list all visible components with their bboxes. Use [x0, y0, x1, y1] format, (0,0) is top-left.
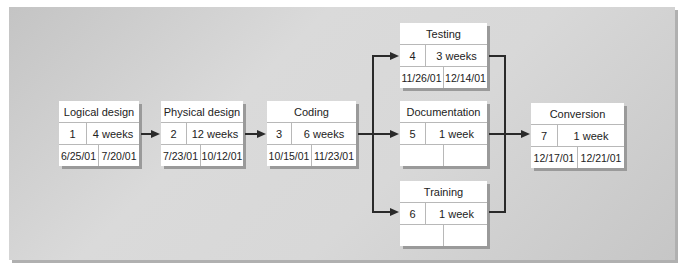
task-start — [400, 225, 443, 246]
task-name: Logical design — [59, 101, 139, 122]
task-node-documentation: Documentation 51 week — [400, 101, 487, 166]
task-node-physical-design: Physical design 212 weeks 7/23/0110/12/0… — [161, 101, 243, 166]
task-end: 11/23/01 — [311, 145, 356, 166]
fork-vertical — [372, 55, 374, 213]
task-name: Conversion — [531, 103, 624, 124]
task-id: 6 — [400, 203, 425, 224]
task-end — [443, 225, 487, 246]
task-end: 12/14/01 — [443, 67, 487, 88]
edge-5-7 — [489, 133, 522, 135]
task-end — [443, 145, 487, 166]
task-id: 7 — [531, 125, 557, 146]
task-start — [400, 145, 443, 166]
task-name: Coding — [267, 101, 356, 122]
task-node-coding: Coding 36 weeks 10/15/0111/23/01 — [267, 101, 356, 166]
edge-6-join — [489, 211, 506, 213]
task-duration: 6 weeks — [291, 123, 356, 144]
task-start: 10/15/01 — [267, 145, 311, 166]
task-duration: 1 week — [425, 203, 487, 224]
task-start: 7/23/01 — [161, 145, 200, 166]
arrowhead-icon — [390, 130, 399, 138]
task-node-training: Training 61 week — [400, 181, 487, 246]
edge-3-6 — [372, 211, 391, 213]
task-start: 11/26/01 — [400, 67, 443, 88]
task-id: 5 — [400, 123, 425, 144]
arrowhead-icon — [521, 130, 530, 138]
arrowhead-icon — [390, 208, 399, 216]
task-node-logical-design: Logical design 14 weeks 6/25/017/20/01 — [59, 101, 139, 166]
task-duration: 1 week — [557, 125, 624, 146]
edge-3-fork — [358, 133, 391, 135]
edge-3-4 — [372, 55, 391, 57]
arrowhead-icon — [151, 130, 160, 138]
task-end: 7/20/01 — [98, 145, 139, 166]
task-end: 10/12/01 — [200, 145, 243, 166]
task-id: 2 — [161, 123, 186, 144]
task-duration: 3 weeks — [425, 45, 487, 66]
task-node-testing: Testing 43 weeks 11/26/0112/14/01 — [400, 23, 487, 88]
task-duration: 4 weeks — [86, 123, 139, 144]
task-id: 1 — [59, 123, 86, 144]
task-end: 12/21/01 — [577, 147, 624, 168]
task-name: Physical design — [161, 101, 243, 122]
task-duration: 12 weeks — [186, 123, 243, 144]
task-node-conversion: Conversion 71 week 12/17/0112/21/01 — [531, 103, 624, 168]
task-name: Documentation — [400, 101, 487, 122]
task-start: 12/17/01 — [531, 147, 577, 168]
task-duration: 1 week — [425, 123, 487, 144]
task-name: Testing — [400, 23, 487, 44]
task-start: 6/25/01 — [59, 145, 98, 166]
edge-4-join — [489, 55, 506, 57]
arrowhead-icon — [257, 130, 266, 138]
task-name: Training — [400, 181, 487, 202]
arrowhead-icon — [390, 52, 399, 60]
task-id: 3 — [267, 123, 291, 144]
task-id: 4 — [400, 45, 425, 66]
